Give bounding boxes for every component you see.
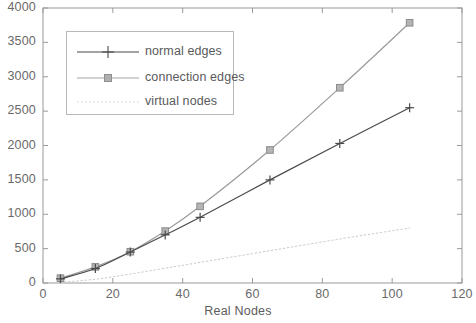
y-tick-label: 3000	[0, 69, 36, 83]
legend-entry-normal-edges: normal edges	[67, 39, 235, 65]
legend-swatch-connection-edges	[75, 65, 141, 91]
legend-label-virtual-nodes: virtual nodes	[145, 94, 217, 108]
data-point-marker	[267, 147, 274, 154]
x-tick-label: 0	[18, 287, 68, 301]
x-tick-label: 60	[228, 287, 278, 301]
x-tick-label: 40	[158, 287, 208, 301]
y-tick-label: 1500	[0, 172, 36, 186]
legend-entry-virtual-nodes: virtual nodes	[67, 89, 235, 115]
y-tick-label: 2500	[0, 103, 36, 117]
y-tick-label: 2000	[0, 138, 36, 152]
legend-entry-connection-edges: connection edges	[67, 65, 235, 91]
y-tick-label: 1000	[0, 206, 36, 220]
legend-label-normal-edges: normal edges	[145, 44, 222, 58]
legend: normal edges connection edges virtual no…	[66, 31, 234, 115]
data-point-marker	[197, 203, 204, 210]
data-point-marker	[406, 19, 413, 26]
x-tick-label: 120	[437, 287, 476, 301]
legend-label-connection-edges: connection edges	[145, 70, 245, 84]
legend-swatch-normal-edges	[75, 39, 141, 65]
x-tick-label: 20	[88, 287, 138, 301]
x-tick-label: 80	[297, 287, 347, 301]
chart-figure: 05001000150020002500300035004000 0204060…	[0, 0, 476, 323]
x-tick-label: 100	[367, 287, 417, 301]
y-tick-label: 500	[0, 241, 36, 255]
y-tick-label: 4000	[0, 0, 36, 14]
x-axis-title: Real Nodes	[0, 304, 476, 318]
data-point-marker	[336, 84, 343, 91]
y-tick-label: 3500	[0, 34, 36, 48]
legend-swatch-virtual-nodes	[75, 89, 141, 115]
